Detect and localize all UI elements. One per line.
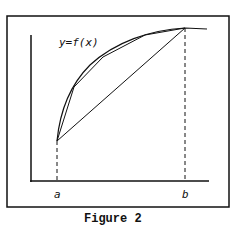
figure-diagram: y=f(x) a b Figure 2 [0, 0, 241, 229]
figure-frame [7, 16, 229, 207]
function-label: y=f(x) [58, 36, 99, 49]
label-a: a [54, 188, 61, 201]
label-b: b [182, 188, 189, 201]
figure-caption: Figure 2 [84, 212, 142, 226]
